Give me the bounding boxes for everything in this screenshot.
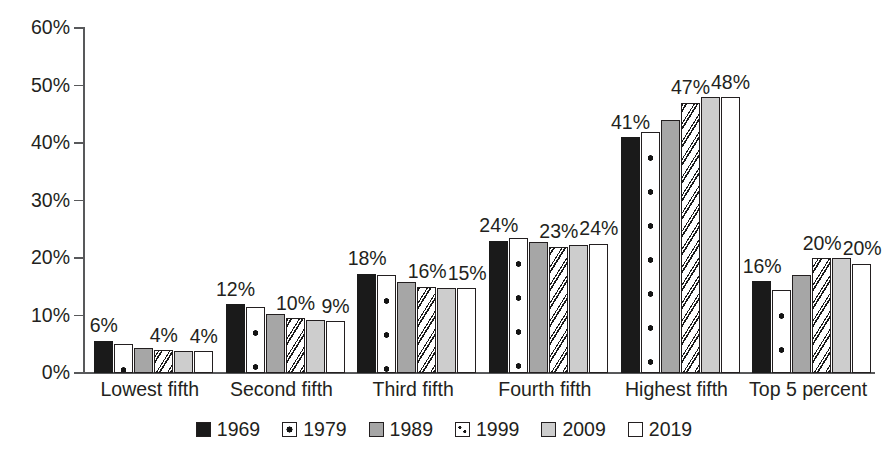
bar-value-label: 16% [743, 257, 782, 277]
bar-top-5-percent-1979 [772, 290, 791, 373]
y-axis-tick [74, 257, 83, 259]
bar-value-label: 16% [408, 262, 447, 282]
bar-lowest-fifth-1999 [154, 350, 173, 373]
y-axis-tick [74, 200, 83, 202]
bar-value-label: 18% [348, 249, 387, 269]
bar-value-label: 6% [90, 316, 118, 336]
y-axis-tick-label: 60% [0, 18, 70, 38]
legend-label: 1989 [390, 420, 433, 440]
bar-second-fifth-1979 [246, 307, 265, 373]
legend-label: 1969 [217, 420, 260, 440]
bar-chart: 0%10%20%30%40%50%60% 6%4%4%12%10%9%18%16… [0, 0, 888, 469]
bar-lowest-fifth-1979 [114, 344, 133, 373]
legend-item-1969[interactable]: 1969 [196, 420, 260, 440]
bar-highest-fifth-1999 [681, 103, 700, 373]
bar-third-fifth-1989 [397, 282, 416, 373]
bar-value-label: 20% [843, 239, 882, 259]
y-axis-tick [74, 372, 83, 374]
y-axis-tick-label: 50% [0, 76, 70, 96]
gray-swatch [369, 422, 384, 437]
bar-highest-fifth-2019 [721, 97, 740, 373]
bar-second-fifth-1999 [286, 318, 305, 373]
bar-group: 16%20%20% [752, 28, 872, 373]
bar-second-fifth-1989 [266, 314, 285, 373]
speckled-swatch [455, 422, 470, 437]
y-axis-tick [74, 85, 83, 87]
bar-group: 12%10%9% [226, 28, 346, 373]
bar-fourth-fifth-1989 [529, 242, 548, 373]
bar-top-5-percent-2019 [852, 264, 871, 373]
y-axis-tick [74, 27, 83, 29]
bar-value-label: 24% [479, 216, 518, 236]
bar-value-label: 10% [276, 294, 315, 314]
x-axis-label-highest-fifth: Highest fifth [611, 378, 743, 400]
chart-legend: 196919791989199920092019 [0, 420, 888, 440]
y-axis-tick-label: 10% [0, 306, 70, 326]
bar-fourth-fifth-1999 [549, 247, 568, 374]
bar-value-label: 47% [671, 78, 710, 98]
bar-third-fifth-2009 [437, 288, 456, 373]
bar-group: 6%4%4% [94, 28, 214, 373]
bar-value-label: 24% [579, 219, 618, 239]
solid-black-swatch [196, 422, 211, 437]
bar-value-label: 48% [711, 73, 750, 93]
bar-value-label: 12% [216, 280, 255, 300]
bar-top-5-percent-1999 [812, 258, 831, 373]
x-axis-label-top-5-percent: Top 5 percent [742, 378, 874, 400]
bar-value-label: 41% [611, 113, 650, 133]
legend-label: 2009 [562, 420, 605, 440]
bar-highest-fifth-1989 [661, 120, 680, 373]
bar-highest-fifth-1969 [621, 137, 640, 373]
x-axis-label-second-fifth: Second fifth [216, 378, 348, 400]
bar-third-fifth-1979 [377, 275, 396, 373]
light-gray-swatch [541, 422, 556, 437]
bar-lowest-fifth-2019 [194, 351, 213, 373]
legend-label: 2019 [649, 420, 692, 440]
legend-item-2009[interactable]: 2009 [541, 420, 605, 440]
bar-group: 24%23%24% [489, 28, 609, 373]
bar-lowest-fifth-2009 [174, 351, 193, 373]
bar-second-fifth-2019 [326, 321, 345, 373]
legend-item-1979[interactable]: 1979 [282, 420, 346, 440]
bar-top-5-percent-1989 [792, 275, 811, 373]
bar-value-label: 15% [448, 264, 487, 284]
bar-fourth-fifth-2019 [589, 244, 608, 373]
bar-value-label: 9% [321, 297, 349, 317]
bar-group: 18%16%15% [357, 28, 477, 373]
y-axis-tick [74, 142, 83, 144]
legend-label: 1979 [303, 420, 346, 440]
bar-third-fifth-1969 [357, 274, 376, 373]
y-axis-tick-label: 30% [0, 191, 70, 211]
y-axis-tick-label: 40% [0, 133, 70, 153]
legend-item-1989[interactable]: 1989 [369, 420, 433, 440]
bar-lowest-fifth-1969 [94, 341, 113, 373]
bar-highest-fifth-1979 [641, 132, 660, 374]
bar-fourth-fifth-2009 [569, 245, 588, 373]
bar-third-fifth-1999 [417, 287, 436, 373]
y-axis-tick-label: 20% [0, 248, 70, 268]
bar-fourth-fifth-1969 [489, 241, 508, 373]
bar-group: 41%47%48% [621, 28, 741, 373]
bar-second-fifth-2009 [306, 320, 325, 373]
bar-value-label: 23% [539, 222, 578, 242]
bar-lowest-fifth-1989 [134, 348, 153, 373]
x-axis-label-third-fifth: Third fifth [347, 378, 479, 400]
bar-value-label: 20% [803, 234, 842, 254]
bar-second-fifth-1969 [226, 304, 245, 373]
bar-value-label: 4% [150, 326, 178, 346]
x-axis-label-fourth-fifth: Fourth fifth [479, 378, 611, 400]
legend-item-1999[interactable]: 1999 [455, 420, 519, 440]
bar-top-5-percent-2009 [832, 258, 851, 373]
legend-item-2019[interactable]: 2019 [628, 420, 692, 440]
bar-fourth-fifth-1979 [509, 238, 528, 373]
dotted-swatch [282, 422, 297, 437]
y-axis-tick-label: 0% [0, 363, 70, 383]
legend-label: 1999 [476, 420, 519, 440]
bar-value-label: 4% [190, 327, 218, 347]
bar-third-fifth-2019 [457, 288, 476, 373]
bar-top-5-percent-1969 [752, 281, 771, 373]
white-swatch [628, 422, 643, 437]
y-axis-tick [74, 315, 83, 317]
plot-area: 6%4%4%12%10%9%18%16%15%24%23%24%41%47%48… [84, 28, 874, 373]
x-axis-label-lowest-fifth: Lowest fifth [84, 378, 216, 400]
